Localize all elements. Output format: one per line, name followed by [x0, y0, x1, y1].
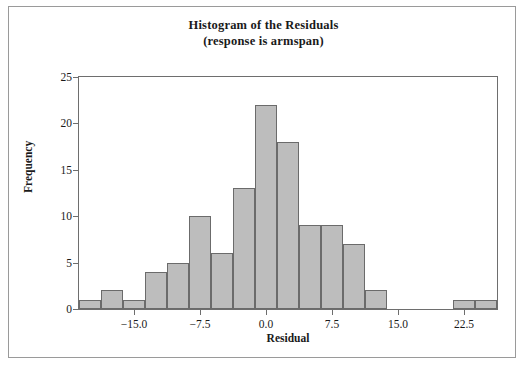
y-tick-mark: [73, 263, 79, 264]
histogram-bar: [277, 142, 299, 309]
x-tick-label: −15.0: [121, 318, 148, 330]
histogram-bar: [189, 216, 211, 309]
histogram-bar: [365, 290, 387, 309]
histogram-bars: [79, 77, 497, 309]
plot-area: 0510152025 −15.0−7.50.07.515.022.5: [78, 76, 498, 310]
x-tick-mark: [464, 309, 465, 315]
histogram-bar: [79, 300, 101, 309]
figure-page: Histogram of the Residuals (response is …: [0, 0, 527, 372]
x-tick-mark: [398, 309, 399, 315]
histogram-bar: [453, 300, 475, 309]
histogram-bar: [167, 263, 189, 309]
x-tick-label: −7.5: [190, 318, 211, 330]
y-tick-label: 10: [61, 210, 73, 222]
histogram-bar: [145, 272, 167, 309]
histogram-bar: [475, 300, 497, 309]
x-tick-mark: [134, 309, 135, 315]
histogram-bar: [299, 225, 321, 309]
chart-title: Histogram of the Residuals: [0, 18, 527, 34]
y-tick-mark: [73, 123, 79, 124]
histogram-bar: [233, 188, 255, 309]
y-tick-mark: [73, 309, 79, 310]
y-tick-label: 5: [66, 257, 72, 269]
y-tick-label: 20: [61, 117, 73, 129]
x-tick-label: 22.5: [454, 318, 474, 330]
x-tick-mark: [266, 309, 267, 315]
chart-subtitle: (response is armspan): [0, 34, 527, 50]
histogram-bar: [123, 300, 145, 309]
x-tick-label: 15.0: [388, 318, 408, 330]
y-tick-label: 0: [66, 303, 72, 315]
y-tick-mark: [73, 216, 79, 217]
x-axis-title: Residual: [78, 332, 498, 344]
histogram-bar: [255, 105, 277, 309]
y-tick-label: 15: [61, 164, 73, 176]
y-axis-title: Frequency: [22, 141, 34, 193]
histogram-bar: [211, 253, 233, 309]
x-tick-mark: [200, 309, 201, 315]
histogram-bar: [321, 225, 343, 309]
histogram-bar: [343, 244, 365, 309]
x-tick-label: 0.0: [259, 318, 273, 330]
x-tick-mark: [332, 309, 333, 315]
histogram-bar: [101, 290, 123, 309]
x-tick-label: 7.5: [325, 318, 339, 330]
y-tick-label: 25: [61, 71, 73, 83]
chart-title-block: Histogram of the Residuals (response is …: [0, 18, 527, 49]
y-tick-mark: [73, 77, 79, 78]
y-tick-mark: [73, 170, 79, 171]
